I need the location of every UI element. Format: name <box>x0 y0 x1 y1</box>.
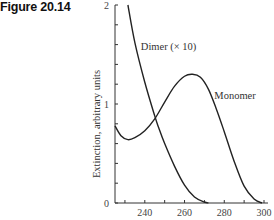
series-line-dimer <box>128 5 208 203</box>
series-label-dimer: Dimer (× 10) <box>141 41 197 53</box>
x-tick-label: 240 <box>137 207 152 218</box>
x-tick-label: 300 <box>257 207 272 218</box>
y-tick-label: 2 <box>104 0 109 11</box>
x-tick-label: 260 <box>177 207 192 218</box>
line-chart: 240260280300012Extinction, arbitrary uni… <box>0 0 274 220</box>
y-tick-label: 1 <box>104 99 109 110</box>
y-tick-label: 0 <box>104 198 109 209</box>
series-label-monomer: Monomer <box>214 90 256 101</box>
x-tick-label: 280 <box>217 207 232 218</box>
y-axis-label: Extinction, arbitrary units <box>91 70 102 178</box>
